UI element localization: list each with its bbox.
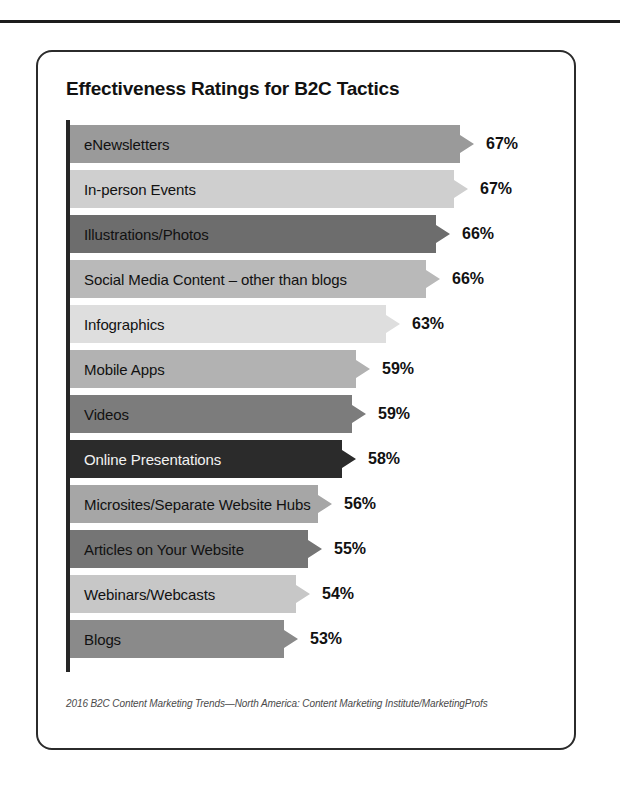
bar: eNewsletters (70, 125, 474, 163)
chart-card: Effectiveness Ratings for B2C Tactics eN… (36, 50, 576, 750)
bar-label: Articles on Your Website (70, 541, 244, 558)
bar-row: Microsites/Separate Website Hubs56% (70, 482, 552, 527)
bar-label: Social Media Content – other than blogs (70, 271, 347, 288)
source-note: 2016 B2C Content Marketing Trends—North … (66, 698, 488, 709)
bar-row: Infographics63% (70, 302, 552, 347)
bar-row: eNewsletters67% (70, 122, 552, 167)
bar: Online Presentations (70, 440, 356, 478)
bar-value-label: 59% (382, 350, 414, 388)
bar-value-label: 56% (344, 485, 376, 523)
bar-row: Blogs53% (70, 617, 552, 662)
bar: Articles on Your Website (70, 530, 322, 568)
bar-chart-plot-area: eNewsletters67%In-person Events67%Illust… (66, 120, 552, 680)
bar-label: Blogs (70, 631, 121, 648)
bar-label: In-person Events (70, 181, 196, 198)
bar-label: Infographics (70, 316, 165, 333)
bar-value-label: 67% (486, 125, 518, 163)
bar-row: Social Media Content – other than blogs6… (70, 257, 552, 302)
bar: Social Media Content – other than blogs (70, 260, 440, 298)
bar-value-label: 58% (368, 440, 400, 478)
bar-label: Mobile Apps (70, 361, 165, 378)
bar: Mobile Apps (70, 350, 370, 388)
bar-value-label: 67% (480, 170, 512, 208)
bar-value-label: 54% (322, 575, 354, 613)
bar-label: eNewsletters (70, 136, 170, 153)
bar-value-label: 59% (378, 395, 410, 433)
bar: Infographics (70, 305, 400, 343)
bar-label: Microsites/Separate Website Hubs (70, 496, 311, 513)
bar-value-label: 63% (412, 305, 444, 343)
bar-rows: eNewsletters67%In-person Events67%Illust… (70, 122, 552, 662)
bar-label: Webinars/Webcasts (70, 586, 215, 603)
bar-label: Online Presentations (70, 451, 221, 468)
page-title: Effectiveness Ratings for B2C Tactics (66, 78, 399, 100)
bar-row: Articles on Your Website55% (70, 527, 552, 572)
bar-row: Online Presentations58% (70, 437, 552, 482)
bar: Videos (70, 395, 366, 433)
bar-value-label: 55% (334, 530, 366, 568)
bar: Illustrations/Photos (70, 215, 450, 253)
bar: Microsites/Separate Website Hubs (70, 485, 332, 523)
bar-label: Illustrations/Photos (70, 226, 209, 243)
bar-row: In-person Events67% (70, 167, 552, 212)
bar-row: Illustrations/Photos66% (70, 212, 552, 257)
bar: Blogs (70, 620, 298, 658)
bar-value-label: 53% (310, 620, 342, 658)
bar-row: Videos59% (70, 392, 552, 437)
bar-label: Videos (70, 406, 129, 423)
page-top-rule (0, 20, 620, 23)
bar: In-person Events (70, 170, 468, 208)
bar: Webinars/Webcasts (70, 575, 310, 613)
bar-value-label: 66% (462, 215, 494, 253)
bar-row: Mobile Apps59% (70, 347, 552, 392)
bar-value-label: 66% (452, 260, 484, 298)
bar-row: Webinars/Webcasts54% (70, 572, 552, 617)
